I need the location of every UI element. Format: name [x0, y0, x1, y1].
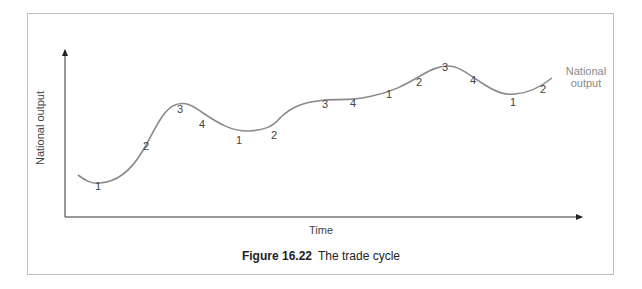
figure-number: Figure 16.22 — [242, 249, 312, 263]
phase-label: 1 — [386, 88, 392, 100]
phase-label: 4 — [199, 118, 205, 130]
phase-label: 2 — [143, 140, 149, 152]
phase-label: 2 — [416, 76, 422, 88]
phase-label: 2 — [540, 83, 546, 95]
phase-label: 1 — [95, 180, 101, 192]
series-label: National output — [561, 65, 611, 89]
phase-label: 1 — [236, 134, 242, 146]
trade-cycle-plot — [0, 0, 642, 289]
figure-title: The trade cycle — [318, 249, 400, 263]
phase-label: 3 — [322, 98, 328, 110]
phase-label: 2 — [271, 129, 277, 141]
series-label-line2: output — [561, 77, 611, 89]
x-axis-label: Time — [309, 224, 333, 236]
phase-label: 4 — [470, 74, 476, 86]
national-output-curve — [78, 66, 552, 183]
y-axis-label: National output — [34, 73, 46, 183]
figure-caption: Figure 16.22The trade cycle — [0, 249, 642, 263]
phase-label: 3 — [442, 61, 448, 73]
phase-label: 1 — [510, 96, 516, 108]
series-label-line1: National — [561, 65, 611, 77]
phase-label: 3 — [177, 103, 183, 115]
phase-label: 4 — [350, 97, 356, 109]
